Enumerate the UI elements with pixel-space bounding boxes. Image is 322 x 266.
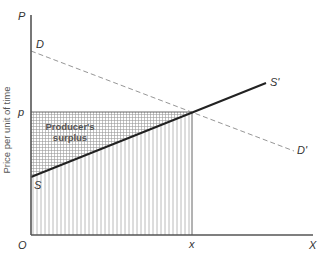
- y-axis-title: Price per unit of time: [1, 86, 12, 173]
- producer-surplus-diagram: P X O Price per unit of time p x S S' D …: [0, 0, 322, 266]
- demand-start-label: D: [36, 38, 44, 50]
- x-axis-symbol: X: [308, 239, 317, 251]
- y-axis-symbol: P: [18, 10, 26, 22]
- supply-end-label: S': [270, 76, 280, 88]
- origin-label: O: [18, 239, 27, 251]
- demand-end-label: D': [297, 144, 308, 156]
- producer-surplus-label-line1: Producer's: [45, 121, 94, 132]
- supply-start-label: S: [34, 179, 42, 191]
- quantity-label: x: [188, 238, 195, 250]
- price-label: p: [17, 106, 24, 118]
- producer-surplus-label-line2: surplus: [53, 132, 87, 143]
